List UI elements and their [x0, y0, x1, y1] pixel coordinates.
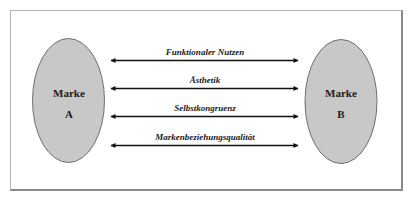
relation-label-aesthetics: Ästhetik — [110, 76, 300, 85]
brand-a-ellipse — [33, 39, 105, 163]
brand-b-ellipse — [305, 40, 377, 164]
diagram-canvas — [0, 0, 415, 202]
brand-a-letter: A — [43, 109, 95, 120]
brand-a-name: Marke — [43, 88, 95, 99]
brand-b-name: Marke — [315, 88, 367, 99]
relation-label-functional: Funktionaler Nutzen — [110, 48, 300, 57]
relation-label-self-congruence: Selbstkongruenz — [110, 104, 300, 113]
brand-b-letter: B — [315, 109, 367, 120]
relation-label-relationship-quality: Markenbeziehungsqualität — [110, 133, 300, 142]
